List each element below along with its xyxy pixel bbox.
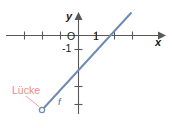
x-tick-label-1: 1 (93, 31, 99, 42)
y-tick-label-minus1: -1 (62, 43, 71, 54)
function-name-label: f (58, 97, 61, 107)
graph-figure: y x O -1 1 f Lücke (0, 0, 172, 128)
gap-open-circle-marker (39, 107, 44, 112)
y-axis-arrow-icon (75, 12, 83, 20)
coordinate-plot (0, 0, 172, 128)
x-axis (6, 32, 166, 40)
graph-line-f (42, 13, 131, 110)
gap-annotation-label: Lücke (12, 85, 40, 96)
origin-label: O (67, 31, 75, 42)
gap-leader-line (26, 96, 40, 107)
y-axis-label: y (66, 11, 72, 22)
y-axis (75, 12, 83, 114)
x-axis-label: x (155, 37, 161, 48)
function-graph (39, 13, 131, 113)
